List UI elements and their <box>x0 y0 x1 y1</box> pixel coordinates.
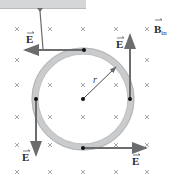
cross-icon <box>48 115 52 119</box>
diagram: r E E E E Bin <box>0 0 172 179</box>
vector-arrow-marks <box>23 19 162 156</box>
cross-icon <box>48 170 52 174</box>
cross-icon <box>81 170 85 174</box>
b-field-label: Bin <box>154 23 167 37</box>
cross-icon <box>48 143 52 147</box>
cross-icon <box>15 170 19 174</box>
e-label-bottom: E <box>132 155 139 167</box>
cross-icon <box>15 115 19 119</box>
cross-icon <box>81 27 85 31</box>
cross-icon <box>48 83 52 87</box>
cross-icon <box>15 58 19 62</box>
cross-icon <box>145 115 149 119</box>
cross-icon <box>15 83 19 87</box>
radius-line <box>83 67 116 99</box>
cross-icon <box>114 143 118 147</box>
center-point <box>81 97 85 101</box>
cross-icon <box>145 58 149 62</box>
cross-icon <box>48 27 52 31</box>
radius-label: r <box>93 74 97 85</box>
e-label-top: E <box>26 33 33 45</box>
e-label-left: E <box>22 151 29 163</box>
cross-icon <box>145 27 149 31</box>
cross-icon <box>145 170 149 174</box>
cross-icon <box>114 170 118 174</box>
cross-icon <box>145 83 149 87</box>
cross-icon <box>114 115 118 119</box>
cross-icon <box>114 27 118 31</box>
cross-icon <box>145 143 149 147</box>
callout-leader-line <box>40 11 43 49</box>
cross-icon <box>81 83 85 87</box>
cross-icon <box>114 83 118 87</box>
e-label-right: E <box>116 38 123 50</box>
cross-icon <box>81 115 85 119</box>
cross-icon <box>15 143 19 147</box>
cross-icon <box>15 27 19 31</box>
